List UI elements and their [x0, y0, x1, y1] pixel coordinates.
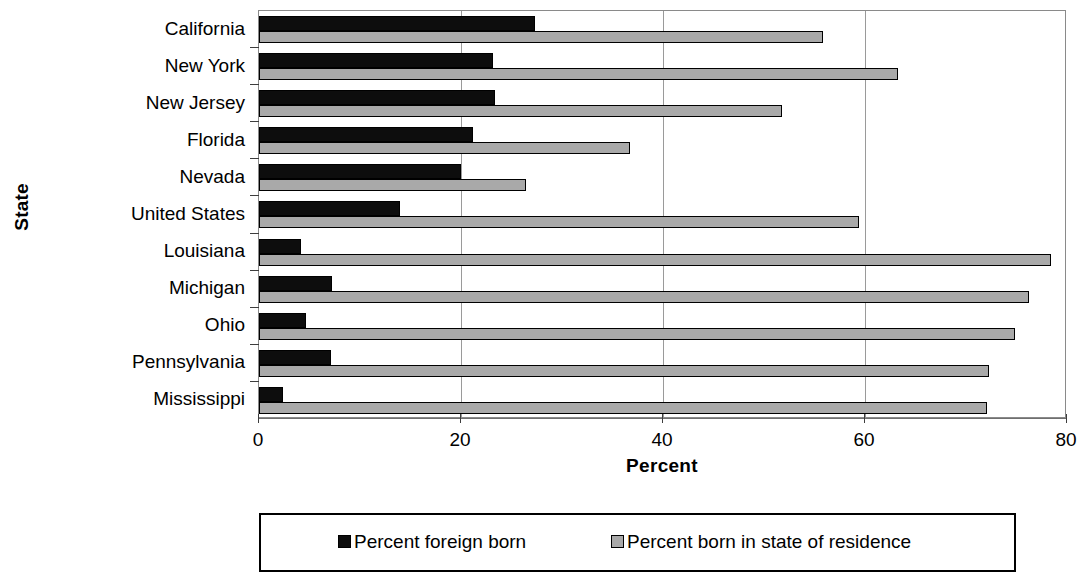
- y-axis-label-florida: Florida: [60, 130, 245, 149]
- y-tick-10: [250, 381, 259, 382]
- x-axis: 020406080: [258, 418, 1066, 420]
- bar-foreign-born-florida: [259, 127, 473, 142]
- x-tick-0: [258, 414, 259, 423]
- bar-foreign-born-california: [259, 16, 535, 31]
- y-axis-label-new-jersey: New Jersey: [60, 93, 245, 112]
- legend-swatch-icon-series-0: [338, 535, 351, 548]
- y-axis-label-new-york: New York: [60, 56, 245, 75]
- y-axis-label-ohio: Ohio: [60, 315, 245, 334]
- x-tick-label-60: 60: [834, 430, 894, 450]
- bar-foreign-born-pennsylvania: [259, 350, 331, 365]
- y-tick-8: [250, 307, 259, 308]
- legend-label-series-0: Percent foreign born: [354, 532, 526, 551]
- y-tick-5: [250, 195, 259, 196]
- y-tick-9: [250, 344, 259, 345]
- x-tick-80: [1066, 414, 1067, 423]
- y-axis-label-michigan: Michigan: [60, 278, 245, 297]
- bar-foreign-born-louisiana: [259, 239, 301, 254]
- x-tick-label-20: 20: [430, 430, 490, 450]
- bar-foreign-born-united-states: [259, 201, 400, 216]
- bar-born-in-state-mississippi: [259, 402, 987, 414]
- bar-born-in-state-florida: [259, 142, 630, 154]
- y-axis-label-pennsylvania: Pennsylvania: [60, 352, 245, 371]
- bar-foreign-born-michigan: [259, 276, 332, 291]
- y-axis-category-labels: CaliforniaNew YorkNew JerseyFloridaNevad…: [60, 10, 245, 420]
- x-tick-60: [864, 414, 865, 423]
- x-tick-label-80: 80: [1036, 430, 1081, 450]
- x-tick-label-0: 0: [228, 430, 288, 450]
- plot-area: [258, 10, 1066, 418]
- chart-legend: Percent foreign born Percent born in sta…: [259, 513, 1016, 572]
- y-axis-label-nevada: Nevada: [60, 167, 245, 186]
- bar-born-in-state-united-states: [259, 216, 859, 228]
- bar-born-in-state-new-york: [259, 68, 898, 80]
- legend-swatch-icon-series-1: [611, 535, 624, 548]
- bar-foreign-born-new-york: [259, 53, 493, 68]
- bar-born-in-state-pennsylvania: [259, 365, 989, 377]
- x-axis-title: Percent: [258, 455, 1066, 477]
- bar-foreign-born-mississippi: [259, 387, 283, 402]
- x-tick-40: [662, 414, 663, 423]
- bar-born-in-state-california: [259, 31, 823, 43]
- bar-born-in-state-new-jersey: [259, 105, 782, 117]
- y-tick-3: [250, 121, 259, 122]
- legend-entry-born-in-state: Percent born in state of residence: [611, 532, 911, 551]
- bar-born-in-state-ohio: [259, 328, 1015, 340]
- y-tick-2: [250, 84, 259, 85]
- y-tick-1: [250, 47, 259, 48]
- bar-foreign-born-new-jersey: [259, 90, 495, 105]
- y-tick-6: [250, 233, 259, 234]
- y-axis-label-louisiana: Louisiana: [60, 241, 245, 260]
- y-tick-4: [250, 158, 259, 159]
- y-axis-label-united-states: United States: [60, 204, 245, 223]
- legend-entry-foreign-born: Percent foreign born: [338, 532, 526, 551]
- y-tick-7: [250, 270, 259, 271]
- y-axis-label-mississippi: Mississippi: [60, 389, 245, 408]
- bar-born-in-state-nevada: [259, 179, 526, 191]
- y-axis-label-california: California: [60, 19, 245, 38]
- bar-foreign-born-ohio: [259, 313, 306, 328]
- bar-born-in-state-louisiana: [259, 254, 1051, 266]
- bar-born-in-state-michigan: [259, 291, 1029, 303]
- x-tick-label-40: 40: [632, 430, 692, 450]
- legend-label-series-1: Percent born in state of residence: [627, 532, 911, 551]
- y-axis-title: State: [11, 147, 33, 267]
- x-tick-20: [460, 414, 461, 423]
- bar-foreign-born-nevada: [259, 164, 461, 179]
